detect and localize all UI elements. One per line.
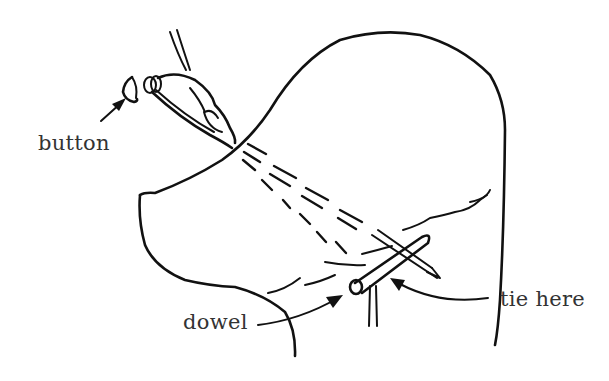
hidden-thread-dashes [243,144,362,253]
label-button: button [38,131,110,155]
fold-line-low-2 [305,275,335,285]
fold-line-mid [325,262,365,265]
arrow-button [101,98,126,121]
label-tie-here: tie here [500,287,585,311]
fold-line-upper [403,190,490,230]
button-rim [132,77,137,98]
arrow-tie-here [390,278,488,300]
line-drawing [0,0,609,381]
thread-loop-inner [152,92,232,148]
fold-line-center [362,246,392,254]
illustration: button dowel tie here [0,0,609,381]
hanging-thread-2 [376,286,377,326]
hanging-thread-1 [369,286,370,326]
arrow-dowel [258,295,343,325]
fold-line-low-1 [268,278,300,293]
label-dowel: dowel [183,310,248,334]
thread-fold-2 [204,112,222,132]
